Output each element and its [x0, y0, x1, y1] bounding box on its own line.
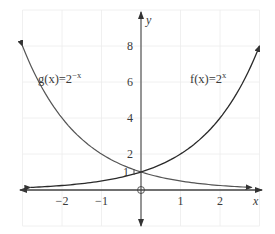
- y-tick-labels: 12468: [123, 39, 133, 179]
- exponential-functions-chart: −2−112 12468 x y g(x)=2−x f(x)=2x: [0, 0, 275, 234]
- x-axis-label: x: [252, 194, 259, 208]
- y-tick-label: 6: [127, 75, 133, 89]
- g-curve: [23, 46, 252, 187]
- y-tick-label: 8: [127, 39, 133, 53]
- x-tick-labels: −2−112: [56, 194, 223, 208]
- x-tick-label: 1: [178, 194, 184, 208]
- x-tick-label: −2: [56, 194, 69, 208]
- y-tick-label: 4: [127, 111, 133, 125]
- f-function-label: f(x)=2x: [190, 70, 227, 86]
- x-tick-label: −1: [95, 194, 108, 208]
- y-tick-label: 2: [127, 147, 133, 161]
- g-function-label: g(x)=2−x: [38, 70, 82, 86]
- y-axis-label: y: [145, 13, 152, 27]
- x-tick-label: 2: [217, 194, 223, 208]
- f-curve: [30, 46, 259, 187]
